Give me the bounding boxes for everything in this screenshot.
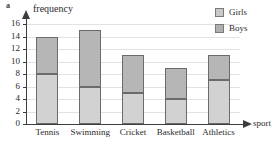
y-tick-mark xyxy=(23,24,27,25)
y-tick-label: 0 xyxy=(2,119,20,128)
bar-segment-girls xyxy=(79,30,101,86)
y-axis-title: frequency xyxy=(33,4,73,14)
y-tick-label: 8 xyxy=(2,69,20,78)
y-tick-label: 16 xyxy=(2,19,20,28)
legend-swatch-boys-icon xyxy=(215,24,224,33)
y-tick-mark xyxy=(23,124,27,125)
y-tick-mark xyxy=(23,87,27,88)
y-tick-label: 4 xyxy=(2,94,20,103)
bar-segment-girls xyxy=(36,37,58,75)
y-tick-mark xyxy=(23,112,27,113)
bar-segment-boys xyxy=(122,93,144,124)
y-tick-label: 14 xyxy=(2,32,20,41)
bar-tennis xyxy=(36,37,58,125)
bar-swimming xyxy=(79,30,101,124)
y-tick-label: 6 xyxy=(2,82,20,91)
x-tick-label-athletics: Athletics xyxy=(189,128,249,137)
legend-item-girls[interactable]: Girls xyxy=(215,5,277,19)
bar-athletics xyxy=(208,55,230,124)
part-label: a xyxy=(6,2,10,10)
legend-swatch-girls-icon xyxy=(215,8,224,17)
y-tick-label: 12 xyxy=(2,44,20,53)
bar-segment-girls xyxy=(165,68,187,99)
bar-segment-boys xyxy=(36,74,58,124)
y-tick-mark xyxy=(23,49,27,50)
bar-segment-boys xyxy=(208,80,230,124)
legend-label-boys: Boys xyxy=(229,24,248,33)
y-axis-line xyxy=(26,18,27,124)
bar-segment-girls xyxy=(122,55,144,93)
gridline xyxy=(26,24,240,25)
legend: Girls Boys xyxy=(215,5,277,37)
y-tick-mark xyxy=(23,99,27,100)
x-axis-line xyxy=(26,124,244,125)
y-tick-label: 2 xyxy=(2,107,20,116)
y-tick-label: 10 xyxy=(2,57,20,66)
bar-segment-boys xyxy=(165,99,187,124)
y-axis-arrow-icon xyxy=(22,10,30,19)
bar-segment-girls xyxy=(208,55,230,80)
legend-label-girls: Girls xyxy=(229,8,247,17)
y-tick-mark xyxy=(23,37,27,38)
bar-basketball xyxy=(165,68,187,124)
x-axis-arrow-icon xyxy=(243,120,252,128)
x-axis-title: sport xyxy=(253,119,271,128)
y-tick-mark xyxy=(23,74,27,75)
bar-cricket xyxy=(122,55,144,124)
figure-container: a frequency sport 0246810121416 TennisSw… xyxy=(0,0,278,155)
y-tick-mark xyxy=(23,62,27,63)
legend-item-boys[interactable]: Boys xyxy=(215,21,277,35)
bar-segment-boys xyxy=(79,87,101,125)
